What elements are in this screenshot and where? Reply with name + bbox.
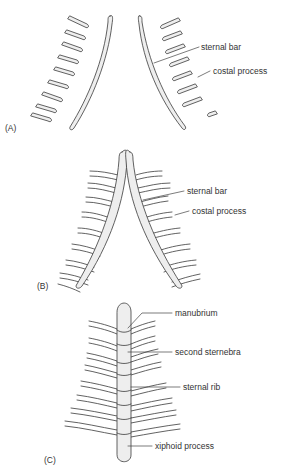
panel-label-a: (A) (5, 124, 16, 133)
right-sternal-bar-b (126, 150, 182, 288)
panel-b-drawing (58, 150, 200, 292)
label-manubrium: manubrium (175, 309, 218, 318)
panel-label-c: (C) (44, 456, 56, 465)
panel-c-drawing (65, 303, 180, 462)
label-sternal-bar-b: sternal bar (187, 187, 227, 196)
label-xiphoid-process: xiphoid process (155, 442, 214, 451)
right-ribs-c (131, 321, 180, 437)
panel-label-b: (B) (37, 282, 48, 291)
left-sternal-bar-b (76, 150, 127, 288)
label-second-sternebra: second sternebra (175, 348, 241, 357)
label-sternal-bar-a: sternal bar (201, 43, 241, 52)
label-sternal-rib: sternal rib (183, 383, 220, 392)
panel-a-drawing (31, 15, 217, 129)
left-sternal-bar (70, 15, 113, 129)
label-costal-process-b: costal process (192, 207, 246, 216)
left-costal-processes (31, 16, 88, 122)
label-costal-process-a: costal process (213, 67, 267, 76)
left-ribs-c (65, 321, 117, 435)
